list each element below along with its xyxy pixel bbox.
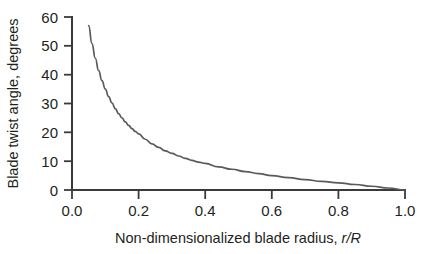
chart-svg: 0 10 20 30 40 50 60 0.0 0.2 0.4 0.6 0.8 … xyxy=(0,0,440,254)
twist-angle-curve xyxy=(89,26,405,190)
y-tick-label: 60 xyxy=(41,9,58,26)
y-tick-label: 30 xyxy=(41,95,58,112)
y-axis-title: Blade twist angle, degrees xyxy=(5,18,21,188)
x-axis-title-italic: r/R xyxy=(342,230,362,246)
x-axis-ticks xyxy=(72,190,405,199)
x-tick-label: 0.8 xyxy=(328,202,349,219)
x-tick-label: 0.0 xyxy=(62,202,83,219)
x-tick-label: 0.2 xyxy=(128,202,149,219)
y-tick-label: 0 xyxy=(50,182,58,199)
x-axis-tick-labels: 0.0 0.2 0.4 0.6 0.8 1.0 xyxy=(62,202,416,219)
y-axis-ticks xyxy=(64,17,72,190)
y-tick-label: 40 xyxy=(41,66,58,83)
y-tick-label: 50 xyxy=(41,37,58,54)
x-axis-title: Non-dimensionalized blade radius, r/R xyxy=(115,230,361,246)
y-axis-tick-labels: 0 10 20 30 40 50 60 xyxy=(41,9,58,199)
x-tick-label: 0.4 xyxy=(195,202,216,219)
y-tick-label: 20 xyxy=(41,124,58,141)
x-axis-title-plain: Non-dimensionalized blade radius, xyxy=(115,230,342,246)
x-tick-label: 1.0 xyxy=(395,202,416,219)
y-tick-label: 10 xyxy=(41,153,58,170)
plot-axes xyxy=(72,17,405,190)
chart-figure: 0 10 20 30 40 50 60 0.0 0.2 0.4 0.6 0.8 … xyxy=(0,0,440,254)
x-tick-label: 0.6 xyxy=(261,202,282,219)
